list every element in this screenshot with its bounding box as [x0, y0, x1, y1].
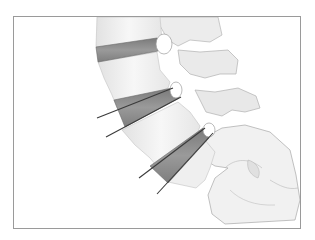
spine-illustration: [0, 0, 315, 240]
